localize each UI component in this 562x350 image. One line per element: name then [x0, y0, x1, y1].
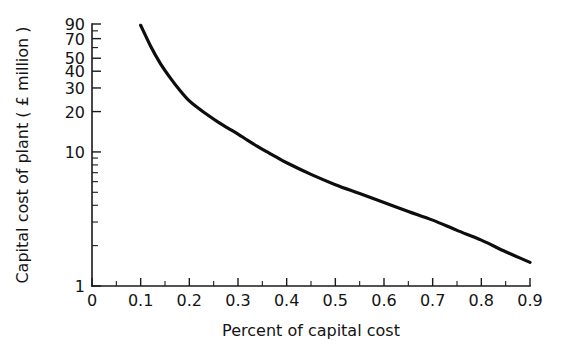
chart-figure: 110203040507090 00.10.20.30.40.50.60.70.…: [0, 0, 562, 350]
y-tick-label-90: 90: [65, 15, 85, 34]
data-series-line: [141, 25, 530, 262]
x-tick-label-0.4: 0.4: [274, 291, 299, 310]
x-tick-label-0.8: 0.8: [469, 291, 494, 310]
y-tick-label-10: 10: [65, 143, 85, 162]
x-tick-label-0.9: 0.9: [517, 291, 542, 310]
x-tick-label-0.3: 0.3: [225, 291, 250, 310]
x-tick-label-0.5: 0.5: [323, 291, 348, 310]
y-axis-title: Capital cost of plant ( £ million ): [13, 26, 32, 283]
y-tick-label-50: 50: [65, 49, 85, 68]
y-axis-tick-labels: 110203040507090: [65, 15, 85, 296]
x-axis-tick-labels: 00.10.20.30.40.50.60.70.80.9: [87, 291, 543, 310]
x-tick-label-0.7: 0.7: [420, 291, 445, 310]
y-axis-major-ticks: [92, 24, 101, 286]
y-tick-label-20: 20: [65, 103, 85, 122]
x-tick-label-0.1: 0.1: [128, 291, 153, 310]
line-chart: 110203040507090 00.10.20.30.40.50.60.70.…: [0, 0, 562, 350]
y-tick-label-1: 1: [75, 277, 85, 296]
y-axis-minor-ticks: [92, 31, 98, 246]
x-axis-title: Percent of capital cost: [222, 321, 400, 340]
y-tick-label-30: 30: [65, 79, 85, 98]
x-tick-label-0.2: 0.2: [177, 291, 202, 310]
x-tick-label-0: 0: [87, 291, 97, 310]
x-tick-label-0.6: 0.6: [371, 291, 396, 310]
